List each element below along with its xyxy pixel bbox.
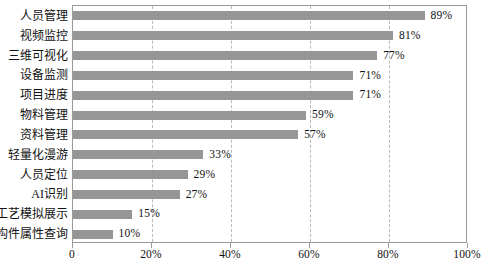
- x-tick-label: 80%: [377, 248, 399, 260]
- category-label: 设备监测: [20, 65, 68, 85]
- bar-value-label: 77%: [383, 50, 405, 62]
- category-label: 项目进度: [20, 84, 68, 104]
- bar-row: 57%: [73, 125, 466, 145]
- bar-row: 10%: [73, 224, 466, 244]
- x-axis-tick-labels: 020%40%60%80%100%: [0, 248, 494, 268]
- bar-rows: 89%81%77%71%71%59%57%33%29%27%15%10%: [73, 6, 466, 242]
- bar: [73, 210, 132, 219]
- bar-row: 71%: [73, 66, 466, 86]
- bar-value-label: 81%: [399, 30, 421, 42]
- bar: [73, 11, 425, 20]
- bar-value-label: 71%: [359, 89, 381, 101]
- bar-row: 33%: [73, 145, 466, 165]
- bar: [73, 71, 353, 80]
- category-label: 资料管理: [20, 124, 68, 144]
- category-label: 构件属性查询: [0, 223, 68, 243]
- bar: [73, 31, 393, 40]
- bar: [73, 51, 377, 60]
- bar-row: 81%: [73, 26, 466, 46]
- bar-value-label: 29%: [194, 169, 216, 181]
- bar-row: 71%: [73, 85, 466, 105]
- bar-chart: 人员管理视频监控三维可视化设备监测项目进度物料管理资料管理轻量化漫游人员定位AI…: [0, 0, 494, 273]
- bar: [73, 111, 306, 120]
- category-label: AI识别: [31, 184, 68, 204]
- x-tick-label: 20%: [140, 248, 162, 260]
- bar: [73, 91, 353, 100]
- bar-value-label: 27%: [186, 189, 208, 201]
- bar: [73, 150, 203, 159]
- bar-row: 29%: [73, 165, 466, 185]
- x-tick-label: 40%: [219, 248, 241, 260]
- category-label: 工艺模拟展示: [0, 203, 68, 223]
- bar-value-label: 15%: [138, 208, 160, 220]
- bar-value-label: 71%: [359, 70, 381, 82]
- category-label: 人员管理: [20, 5, 68, 25]
- bar: [73, 170, 188, 179]
- bar-value-label: 57%: [304, 129, 326, 141]
- bar-row: 77%: [73, 46, 466, 66]
- bar: [73, 130, 298, 139]
- bar-row: 27%: [73, 185, 466, 205]
- category-label: 三维可视化: [8, 45, 68, 65]
- bar: [73, 190, 180, 199]
- category-label: 轻量化漫游: [8, 144, 68, 164]
- category-label: 视频监控: [20, 25, 68, 45]
- bar-value-label: 89%: [431, 10, 453, 22]
- x-tick-label: 60%: [298, 248, 320, 260]
- bar-row: 89%: [73, 6, 466, 26]
- plot-area: 89%81%77%71%71%59%57%33%29%27%15%10%: [72, 5, 467, 243]
- bar-row: 59%: [73, 105, 466, 125]
- bar-row: 15%: [73, 204, 466, 224]
- x-tick-label: 0: [69, 248, 75, 260]
- x-tick-label: 100%: [453, 248, 481, 260]
- category-label: 物料管理: [20, 104, 68, 124]
- bar-value-label: 33%: [209, 149, 231, 161]
- category-label: 人员定位: [20, 164, 68, 184]
- bar: [73, 230, 113, 239]
- bar-value-label: 10%: [119, 228, 141, 240]
- bar-value-label: 59%: [312, 109, 334, 121]
- category-axis-labels: 人员管理视频监控三维可视化设备监测项目进度物料管理资料管理轻量化漫游人员定位AI…: [0, 5, 70, 243]
